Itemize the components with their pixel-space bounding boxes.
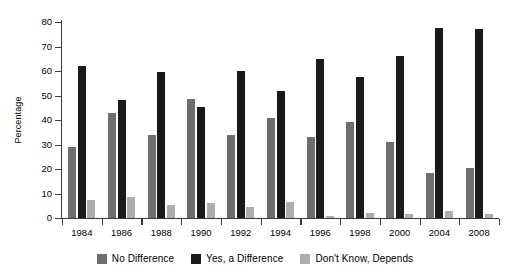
x-axis-tick-label: 2000: [389, 227, 410, 238]
bar: [405, 214, 413, 218]
bar: [356, 77, 364, 218]
chart-legend: No DifferenceYes, a DifferenceDon't Know…: [0, 253, 510, 264]
y-axis-tick: [55, 71, 61, 72]
bar: [237, 71, 245, 218]
bar: [307, 137, 315, 218]
bar: [316, 59, 324, 218]
legend-swatch-icon: [300, 254, 310, 264]
y-axis-tick-label-wrap: 70: [8, 41, 52, 53]
y-axis-tick: [55, 218, 61, 219]
bar: [445, 211, 453, 218]
y-axis-tick: [55, 120, 61, 121]
y-axis-tick-label: 40: [8, 114, 52, 126]
bar: [386, 142, 394, 218]
x-axis-tick-label: 1988: [151, 227, 172, 238]
x-axis-tick: [102, 219, 103, 225]
bar: [207, 203, 215, 218]
x-axis-tick-label: 2008: [469, 227, 490, 238]
x-axis-tick-label: 1986: [111, 227, 132, 238]
y-axis-tick-label: 80: [8, 16, 52, 28]
x-axis-tick: [499, 219, 500, 225]
bar: [187, 99, 195, 218]
y-axis-tick: [55, 169, 61, 170]
y-axis-tick-label-wrap: 60: [8, 65, 52, 77]
y-axis-tick-label: 50: [8, 90, 52, 102]
y-axis-tick-label-wrap: 0: [8, 212, 52, 224]
y-axis-tick: [55, 96, 61, 97]
x-axis-tick-label: 1998: [349, 227, 370, 238]
bar: [108, 113, 116, 218]
x-axis-line: [61, 218, 499, 219]
y-axis-tick: [55, 22, 61, 23]
y-axis-tick-label: 0: [8, 212, 52, 224]
bar: [286, 202, 294, 218]
bar: [426, 173, 434, 218]
bar: [435, 28, 443, 218]
legend-item[interactable]: Yes, a Difference: [191, 253, 283, 264]
x-axis-tick: [221, 219, 222, 225]
x-axis-tick: [340, 219, 341, 225]
y-axis-tick-label: 60: [8, 65, 52, 77]
bar: [366, 213, 374, 218]
x-axis-tick: [181, 219, 182, 225]
bar: [197, 107, 205, 218]
y-axis-tick: [55, 47, 61, 48]
y-axis-tick-label-wrap: 30: [8, 139, 52, 151]
y-axis-tick-label-wrap: 50: [8, 90, 52, 102]
legend-label: Don't Know, Depends: [315, 253, 413, 264]
y-axis-tick-label: 20: [8, 163, 52, 175]
plot-area: [62, 22, 499, 218]
x-axis-tick: [62, 219, 63, 225]
x-axis-tick: [261, 219, 262, 225]
bar: [127, 197, 135, 218]
x-axis-tick: [141, 219, 142, 225]
bar: [485, 214, 493, 218]
bar: [68, 147, 76, 218]
y-axis-tick-label-wrap: 10: [8, 188, 52, 200]
x-axis-tick-label: 1984: [71, 227, 92, 238]
bar: [396, 56, 404, 218]
legend-label: Yes, a Difference: [206, 253, 283, 264]
x-axis-tick: [420, 219, 421, 225]
y-axis-tick-label-wrap: 20: [8, 163, 52, 175]
x-axis-tick: [300, 219, 301, 225]
y-axis-tick-label: 70: [8, 41, 52, 53]
bar: [167, 205, 175, 218]
x-axis-tick-label: 1994: [270, 227, 291, 238]
legend-item[interactable]: No Difference: [97, 253, 174, 264]
bar-chart: Percentage 01020304050607080 19841986198…: [0, 0, 510, 280]
bar: [326, 216, 334, 218]
legend-swatch-icon: [97, 254, 107, 264]
bar: [466, 168, 474, 218]
y-axis-tick: [55, 194, 61, 195]
x-axis-tick: [459, 219, 460, 225]
legend-swatch-icon: [191, 254, 201, 264]
y-axis-tick-label: 30: [8, 139, 52, 151]
bar: [267, 118, 275, 218]
y-axis-tick: [55, 145, 61, 146]
x-axis-tick: [380, 219, 381, 225]
bar: [346, 122, 354, 218]
bar: [78, 66, 86, 218]
legend-label: No Difference: [112, 253, 174, 264]
bar: [118, 100, 126, 218]
y-axis-tick-label-wrap: 80: [8, 16, 52, 28]
bar: [148, 135, 156, 218]
y-axis-tick-label-wrap: 40: [8, 114, 52, 126]
y-axis-tick-label: 10: [8, 188, 52, 200]
x-axis-tick-label: 1996: [310, 227, 331, 238]
bar: [87, 200, 95, 218]
legend-item[interactable]: Don't Know, Depends: [300, 253, 413, 264]
bar: [227, 135, 235, 218]
x-axis-tick-label: 1990: [190, 227, 211, 238]
x-axis-tick-label: 1992: [230, 227, 251, 238]
bar: [475, 29, 483, 218]
bar: [157, 72, 165, 218]
bar: [246, 207, 254, 218]
bar: [277, 91, 285, 218]
x-axis-tick-label: 2004: [429, 227, 450, 238]
